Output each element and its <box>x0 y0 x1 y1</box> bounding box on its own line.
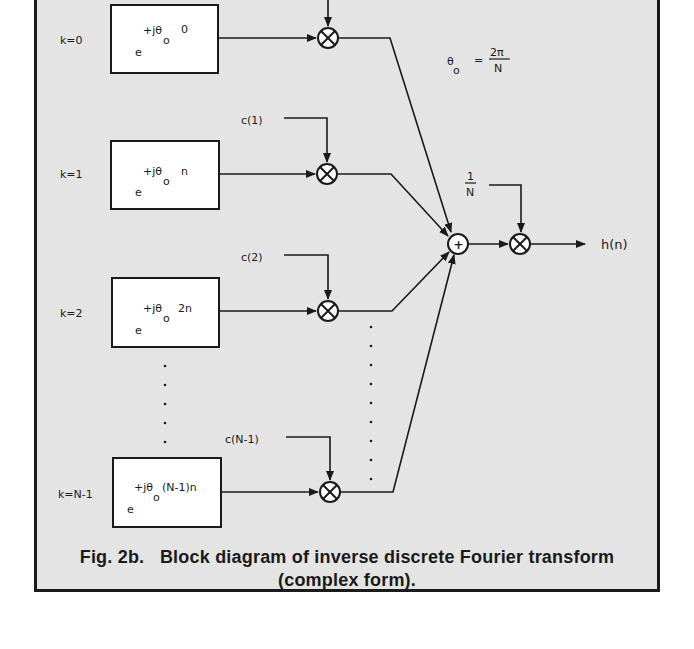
theta-subscript: o <box>453 64 460 77</box>
multiplier-icon <box>318 28 338 48</box>
coefficient-label: c(1) <box>241 114 263 127</box>
exp-tail: n <box>181 165 188 178</box>
equals-sign: = <box>474 54 483 67</box>
exp-tail: 2n <box>178 302 192 315</box>
exp-sup: +jθ <box>143 24 162 37</box>
scale-denominator: N <box>466 186 474 199</box>
branch-k2: k=2 e +jθ o 2n c(2) <box>60 251 449 347</box>
scale-numerator: 1 <box>467 170 474 183</box>
theta-definition: θ o = 2π N <box>447 46 510 77</box>
summer-icon: + <box>448 234 468 254</box>
k-label: k=N-1 <box>58 488 93 501</box>
multiplier-icon <box>318 301 338 321</box>
exp-tail: (N-1)n <box>162 481 197 494</box>
exp-sub: o <box>163 34 170 47</box>
exp-base: e <box>135 324 142 337</box>
figure-caption-line1: Fig. 2b. Block diagram of inverse discre… <box>37 547 657 568</box>
multiplier-icon <box>317 164 337 184</box>
fraction-denominator: N <box>494 62 502 75</box>
k-label: k=2 <box>60 307 83 320</box>
multiplier-icon <box>320 482 340 502</box>
exp-sup: +jθ <box>134 481 153 494</box>
fraction-numerator: 2π <box>490 46 504 59</box>
exp-base: e <box>135 46 142 59</box>
branch-k1: k=1 e +jθ o n c(1) <box>60 114 448 236</box>
exp-sub: o <box>153 491 160 504</box>
output-label: h(n) <box>601 237 628 252</box>
exp-tail: 0 <box>181 23 188 36</box>
plus-symbol: + <box>454 238 464 252</box>
ellipsis-dots-left <box>164 365 167 444</box>
k-label: k=1 <box>60 168 83 181</box>
exp-base: e <box>135 186 142 199</box>
exp-sub: o <box>163 312 170 325</box>
exp-sup: +jθ <box>143 165 162 178</box>
coefficient-label: c(N-1) <box>225 433 259 446</box>
exp-sub: o <box>163 175 170 188</box>
ellipsis-dots-right <box>370 326 373 481</box>
exp-base: e <box>127 503 134 516</box>
k-label: k=0 <box>60 34 83 47</box>
figure-caption-line2: (complex form). <box>37 570 657 591</box>
exp-sup: +jθ <box>143 302 162 315</box>
scale-factor: 1 N <box>465 170 521 232</box>
coefficient-label: c(2) <box>241 251 263 264</box>
multiplier-icon <box>510 234 530 254</box>
